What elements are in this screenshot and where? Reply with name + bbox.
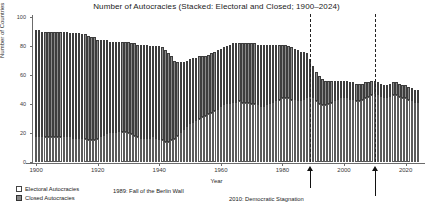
chart-figure: Number of Autocracies (Stacked: Electora… xyxy=(0,0,433,207)
bar-segment-closed xyxy=(164,50,166,141)
bar-1912 xyxy=(72,33,74,162)
bar-segment-closed xyxy=(106,40,108,134)
x-tick-label: 1940 xyxy=(142,167,176,173)
bar-1970 xyxy=(250,43,252,162)
bar-segment-closed xyxy=(281,45,283,99)
bar-segment-closed xyxy=(247,43,249,102)
bar-1901 xyxy=(38,30,40,162)
bar-segment-electoral xyxy=(183,130,185,162)
bar-1924 xyxy=(109,42,111,162)
bar-segment-closed xyxy=(321,79,323,105)
bar-segment-closed xyxy=(229,45,231,104)
bar-segment-electoral xyxy=(312,98,314,162)
bar-segment-closed xyxy=(272,45,274,103)
bar-segment-closed xyxy=(69,33,71,137)
bar-segment-electoral xyxy=(411,101,413,162)
bar-1918 xyxy=(90,37,92,162)
bar-segment-electoral xyxy=(204,116,206,162)
bar-1911 xyxy=(69,33,71,162)
bar-segment-closed xyxy=(395,82,397,95)
bar-1936 xyxy=(146,45,148,162)
bar-2020 xyxy=(404,85,406,162)
bar-1909 xyxy=(63,32,65,163)
bar-1976 xyxy=(269,45,271,162)
bar-1923 xyxy=(106,40,108,162)
bar-1985 xyxy=(297,50,299,162)
bar-segment-closed xyxy=(93,37,95,140)
bar-segment-electoral xyxy=(367,97,369,162)
bar-segment-electoral xyxy=(278,100,280,162)
bar-1983 xyxy=(290,47,292,162)
bar-segment-electoral xyxy=(176,136,178,162)
bar-segment-electoral xyxy=(346,98,348,162)
bar-segment-electoral xyxy=(103,136,105,162)
bar-segment-electoral xyxy=(389,97,391,162)
bar-segment-electoral xyxy=(272,103,274,162)
bar-segment-closed xyxy=(217,50,219,109)
bar-segment-closed xyxy=(327,81,329,104)
bar-segment-closed xyxy=(257,45,259,106)
bar-segment-closed xyxy=(50,32,52,138)
bar-segment-closed xyxy=(404,85,406,98)
bar-segment-electoral xyxy=(361,100,363,162)
bar-1904 xyxy=(47,32,49,163)
bar-segment-electoral xyxy=(370,95,372,162)
bar-segment-closed xyxy=(90,37,92,140)
bar-1947 xyxy=(180,62,182,162)
bar-1964 xyxy=(232,43,234,162)
bar-segment-closed xyxy=(367,82,369,97)
bar-1969 xyxy=(247,43,249,162)
bar-segment-closed xyxy=(167,53,169,141)
bar-segment-closed xyxy=(260,45,262,107)
bar-segment-closed xyxy=(401,85,403,98)
bar-segment-electoral xyxy=(189,124,191,162)
bar-2021 xyxy=(407,87,409,162)
bar-1927 xyxy=(118,42,120,162)
x-tick xyxy=(36,163,37,166)
bar-segment-closed xyxy=(244,43,246,102)
bar-segment-electoral xyxy=(124,132,126,162)
bar-segment-closed xyxy=(100,40,102,137)
bar-segment-closed xyxy=(189,59,191,124)
bar-1990 xyxy=(312,66,314,162)
bar-segment-closed xyxy=(180,62,182,133)
bar-segment-closed xyxy=(112,42,114,133)
bar-2013 xyxy=(383,85,385,162)
bar-segment-closed xyxy=(343,81,345,98)
bar-1955 xyxy=(204,56,206,162)
bar-1992 xyxy=(318,76,320,162)
bar-1915 xyxy=(81,34,83,162)
bar-segment-electoral xyxy=(106,134,108,162)
bar-segment-closed xyxy=(195,58,197,122)
bar-1979 xyxy=(278,45,280,162)
bar-segment-electoral xyxy=(241,103,243,162)
bar-segment-electoral xyxy=(84,139,86,162)
bar-segment-closed xyxy=(115,42,117,133)
bar-1935 xyxy=(143,45,145,162)
bar-segment-electoral xyxy=(281,98,283,162)
bar-segment-electoral xyxy=(260,107,262,162)
bar-1948 xyxy=(183,62,185,162)
bar-1974 xyxy=(263,45,265,162)
bar-1910 xyxy=(66,32,68,163)
bar-1978 xyxy=(275,45,277,162)
bar-1996 xyxy=(330,81,332,162)
bar-segment-closed xyxy=(136,45,138,138)
bar-1971 xyxy=(253,43,255,162)
chart-legend: Electoral Autocracies Closed Autocracies xyxy=(16,185,79,203)
bar-segment-closed xyxy=(287,46,289,98)
bar-segment-closed xyxy=(87,36,89,140)
bar-segment-closed xyxy=(204,56,206,115)
bar-segment-closed xyxy=(183,62,185,130)
bar-segment-closed xyxy=(186,61,188,128)
bar-segment-electoral xyxy=(386,98,388,162)
bar-1921 xyxy=(100,40,102,162)
bar-segment-electoral xyxy=(53,137,55,162)
bar-2022 xyxy=(411,88,413,162)
bar-segment-electoral xyxy=(90,140,92,162)
bar-segment-electoral xyxy=(226,104,228,162)
bar-1941 xyxy=(161,47,163,162)
annotation-vline-1989 xyxy=(310,14,311,162)
bar-segment-electoral xyxy=(355,101,357,162)
bar-segment-electoral xyxy=(407,100,409,162)
